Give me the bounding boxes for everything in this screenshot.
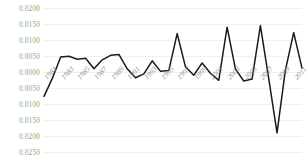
y-tick-label-4: 0.0000 bbox=[19, 68, 40, 77]
y-tick-label-7: 0.0150 bbox=[19, 116, 40, 125]
x-tick-label-1997: 1997 bbox=[175, 65, 192, 82]
x-tick-label-1981: 1981 bbox=[42, 65, 59, 82]
x-axis-tick-labels: 1981198319851987198919911993199519971999… bbox=[44, 8, 302, 152]
x-tick-label-1991: 1991 bbox=[125, 65, 142, 82]
x-tick-label-2005: 2005 bbox=[242, 65, 259, 82]
x-tick-label-1983: 1983 bbox=[59, 65, 76, 82]
gridline-9 bbox=[44, 152, 302, 153]
x-tick-label-2001: 2001 bbox=[208, 65, 225, 82]
y-tick-label-0: 0.0200 bbox=[19, 4, 40, 13]
y-tick-label-1: 0.0150 bbox=[19, 20, 40, 29]
y-tick-label-8: 0.0200 bbox=[19, 132, 40, 141]
y-tick-label-5: 0.0050 bbox=[19, 84, 40, 93]
x-tick-label-2003: 2003 bbox=[225, 65, 242, 82]
y-axis-tick-labels: 0.02000.01500.01000.00500.00000.00500.01… bbox=[0, 8, 42, 152]
y-tick-label-2: 0.0100 bbox=[19, 36, 40, 45]
y-tick-label-3: 0.0050 bbox=[19, 52, 40, 61]
x-tick-label-1989: 1989 bbox=[109, 65, 126, 82]
x-tick-label-2009: 2009 bbox=[275, 65, 292, 82]
x-tick-label-1995: 1995 bbox=[159, 65, 176, 82]
x-tick-label-1993: 1993 bbox=[142, 65, 159, 82]
x-tick-label-1999: 1999 bbox=[192, 65, 209, 82]
line-chart: 0.02000.01500.01000.00500.00000.00500.01… bbox=[0, 0, 308, 160]
y-tick-label-6: 0.0100 bbox=[19, 100, 40, 109]
x-tick-label-1985: 1985 bbox=[75, 65, 92, 82]
x-tick-label-1987: 1987 bbox=[92, 65, 109, 82]
x-tick-label-2007: 2007 bbox=[258, 65, 275, 82]
x-tick-label-2011: 2011 bbox=[292, 65, 308, 81]
y-tick-label-9: 0.0250 bbox=[19, 148, 40, 157]
